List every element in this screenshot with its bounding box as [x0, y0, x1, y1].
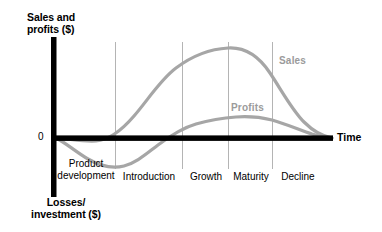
- y-axis-line: [51, 37, 57, 197]
- x-axis-title: Time: [337, 131, 361, 143]
- y-axis-title-bottom: Losses/ investment ($): [12, 196, 120, 220]
- profits-curve-label: Profits: [231, 102, 264, 114]
- stage-label-maturity: Maturity: [230, 171, 272, 183]
- y-axis-title-top: Sales and profits ($): [27, 11, 75, 35]
- stage-label-introduction: Introduction: [117, 171, 181, 183]
- origin-zero-label: 0: [38, 131, 44, 143]
- stage-label-product-development: Product development: [57, 158, 115, 181]
- x-axis-line: [51, 135, 333, 141]
- stage-label-decline: Decline: [274, 171, 322, 183]
- sales-curve-label: Sales: [279, 55, 306, 67]
- product-life-cycle-chart: Sales and profits ($) Losses/ investment…: [0, 0, 382, 232]
- stage-label-growth: Growth: [184, 171, 228, 183]
